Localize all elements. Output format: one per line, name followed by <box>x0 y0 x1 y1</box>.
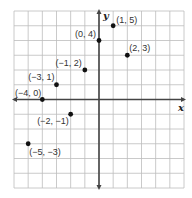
point-marker <box>54 82 59 87</box>
point-marker <box>125 53 130 58</box>
point-marker <box>68 112 73 117</box>
point-label: (2, 3) <box>129 43 150 53</box>
point-label: (−4, 0) <box>15 88 41 98</box>
point-label: (−5, −3) <box>29 147 61 157</box>
data-points: (1, 5)(0, 4)(2, 3)(−1, 2)(−3, 1)(−4, 0)(… <box>15 15 150 157</box>
point-marker <box>82 68 87 73</box>
x-axis-arrow-left-icon <box>12 97 17 102</box>
x-axis-label: x <box>177 102 185 113</box>
y-axis-label: y <box>102 10 110 21</box>
axes: x y <box>12 9 186 190</box>
point-marker <box>26 141 31 146</box>
point-marker <box>97 38 102 43</box>
point-label: (−2, −1) <box>37 116 69 126</box>
point-label: (−3, 1) <box>28 72 54 82</box>
point-marker <box>40 97 45 102</box>
y-axis-arrow-down-icon <box>97 185 102 190</box>
coordinate-plane: x y (1, 5)(0, 4)(2, 3)(−1, 2)(−3, 1)(−4,… <box>0 0 192 198</box>
point-marker <box>111 23 116 28</box>
y-axis-arrow-up-icon <box>97 9 102 14</box>
point-label: (−1, 2) <box>56 58 82 68</box>
point-label: (0, 4) <box>75 29 96 39</box>
point-label: (1, 5) <box>116 15 137 25</box>
